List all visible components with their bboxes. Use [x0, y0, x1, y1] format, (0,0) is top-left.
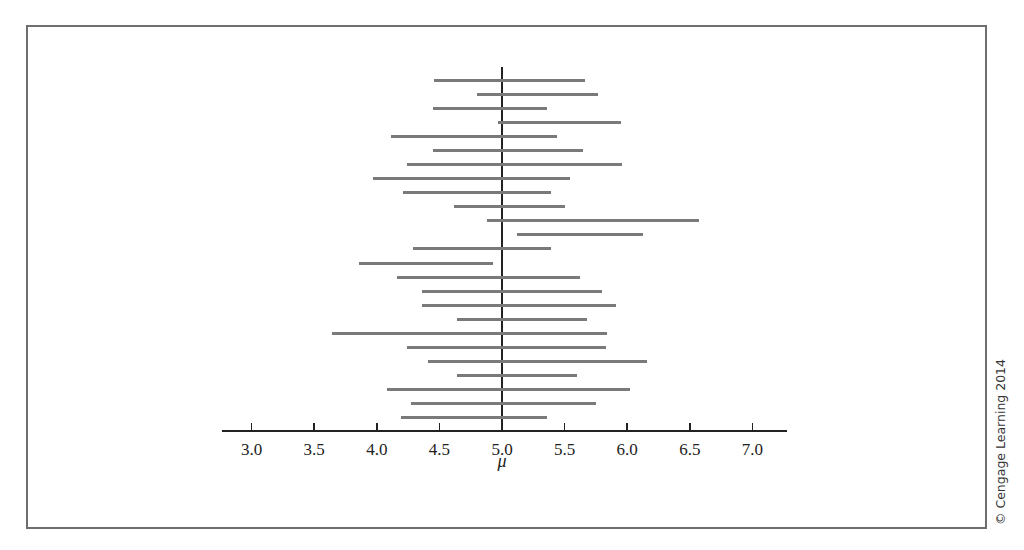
- confidence-interval-bar: [422, 290, 602, 293]
- x-axis-tick: [376, 423, 378, 431]
- x-axis-tick: [439, 423, 441, 431]
- confidence-interval-bar: [401, 416, 547, 419]
- confidence-interval-bar: [487, 219, 699, 222]
- confidence-interval-bar: [422, 304, 616, 307]
- confidence-interval-bar: [391, 135, 558, 138]
- confidence-interval-bar: [359, 262, 493, 265]
- x-axis-tick: [626, 423, 628, 431]
- confidence-interval-bar: [428, 360, 647, 363]
- x-axis-tick: [689, 423, 691, 431]
- x-axis-line: [222, 430, 787, 432]
- confidence-interval-bar: [517, 233, 643, 236]
- confidence-interval-bar: [373, 177, 570, 180]
- x-axis-tick-label: 4.0: [366, 440, 387, 460]
- x-axis-tick-label: 5.5: [554, 440, 575, 460]
- confidence-interval-bar: [332, 332, 607, 335]
- x-axis-tick: [752, 423, 754, 431]
- x-axis-tick-label: 6.5: [679, 440, 700, 460]
- confidence-interval-bar: [407, 163, 622, 166]
- x-axis-tick: [313, 423, 315, 431]
- confidence-interval-bar: [433, 149, 583, 152]
- confidence-interval-bar: [433, 107, 547, 110]
- x-axis-tick-label: 4.5: [429, 440, 450, 460]
- confidence-interval-bar: [403, 191, 551, 194]
- x-axis-label: μ: [497, 451, 506, 472]
- confidence-interval-bar: [457, 318, 587, 321]
- confidence-interval-bar: [434, 79, 584, 82]
- copyright-notice: © Cengage Learning 2014: [993, 359, 1008, 525]
- confidence-interval-bar: [498, 121, 621, 124]
- confidence-interval-bar: [407, 346, 606, 349]
- confidence-interval-bar: [457, 374, 577, 377]
- x-axis-tick: [564, 423, 566, 431]
- x-axis-tick-label: 7.0: [742, 440, 763, 460]
- confidence-interval-bar: [387, 388, 630, 391]
- x-axis-tick-label: 6.0: [617, 440, 638, 460]
- x-axis-tick: [251, 423, 253, 431]
- confidence-interval-bar: [397, 276, 580, 279]
- confidence-interval-bar: [477, 93, 598, 96]
- confidence-interval-bar: [411, 402, 596, 405]
- x-axis-tick-label: 3.0: [241, 440, 262, 460]
- x-axis-tick-label: 3.5: [304, 440, 325, 460]
- confidence-interval-chart: 3.03.54.04.55.05.56.06.57.0 μ: [0, 0, 1024, 550]
- confidence-interval-bar: [413, 247, 551, 250]
- confidence-interval-bar: [454, 205, 564, 208]
- x-axis-tick: [501, 423, 503, 431]
